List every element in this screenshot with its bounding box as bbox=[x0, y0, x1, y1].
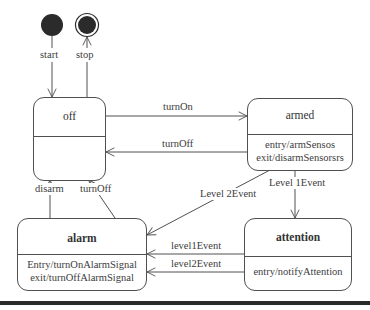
state-off: off bbox=[33, 97, 106, 181]
state-attention-entry: entry/notifyAttention bbox=[245, 265, 351, 278]
state-armed-divider bbox=[248, 134, 352, 135]
disarm-label: disarm bbox=[35, 183, 64, 195]
level2event-armed-label: Level 2Event bbox=[200, 188, 256, 200]
state-armed-actions: entry/armSensos exit/disarmSensorsrs bbox=[248, 138, 352, 164]
level2event-attention-label: level2Event bbox=[171, 258, 221, 270]
state-alarm-divider bbox=[18, 254, 146, 255]
state-armed-entry: entry/armSensos bbox=[248, 138, 352, 151]
state-armed: armed entry/armSensos exit/disarmSensors… bbox=[247, 98, 353, 171]
bottom-rule bbox=[0, 301, 370, 305]
state-off-name: off bbox=[34, 110, 105, 122]
state-attention: attention entry/notifyAttention bbox=[244, 218, 352, 291]
level1event-armed-label: Level 1Event bbox=[269, 177, 325, 189]
turnon-label: turnOn bbox=[163, 101, 193, 113]
start-label: start bbox=[40, 49, 58, 61]
start-node-icon bbox=[41, 14, 63, 36]
stop-node-icon bbox=[76, 14, 99, 37]
turnoff-armed-label: turnOff bbox=[162, 138, 193, 150]
state-alarm-name: alarm bbox=[18, 232, 146, 244]
state-attention-divider bbox=[245, 256, 351, 257]
level1event-attention-label: level1Event bbox=[171, 240, 221, 252]
stop-label: stop bbox=[76, 49, 94, 61]
state-off-divider bbox=[34, 136, 105, 137]
state-attention-name: attention bbox=[245, 231, 351, 243]
state-alarm-entry: Entry/turnOnAlarmSignal bbox=[18, 258, 146, 271]
state-alarm-exit: exit/turnOffAlarmSignal bbox=[18, 271, 146, 284]
state-alarm-actions: Entry/turnOnAlarmSignal exit/turnOffAlar… bbox=[18, 258, 146, 284]
state-armed-name: armed bbox=[248, 109, 352, 121]
state-armed-exit: exit/disarmSensorsrs bbox=[248, 151, 352, 164]
state-alarm: alarm Entry/turnOnAlarmSignal exit/turnO… bbox=[17, 218, 147, 291]
state-attention-actions: entry/notifyAttention bbox=[245, 265, 351, 278]
turnoff-alarm-label: turnOff bbox=[80, 183, 111, 195]
